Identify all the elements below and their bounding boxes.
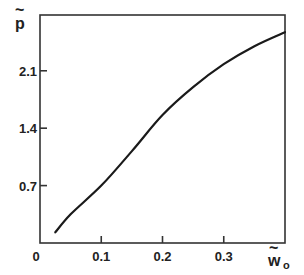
y-tick-label: 2.1 — [19, 64, 37, 79]
data-line — [55, 32, 285, 232]
x-tick-label: 0 — [32, 249, 39, 264]
x-tick-label: 0.3 — [215, 249, 233, 264]
x-tick-label: 0.2 — [153, 249, 171, 264]
y-tick-label: 0.7 — [19, 179, 37, 194]
tick-labels: 00.10.20.30.71.42.1 — [19, 64, 233, 264]
chart: 00.10.20.30.71.42.1 p ~ w ~ o — [0, 0, 304, 275]
y-tick-label: 1.4 — [19, 121, 38, 136]
y-axis-label-tilde: ~ — [15, 1, 24, 18]
x-tick-label: 0.1 — [92, 249, 110, 264]
x-axis-label-subscript: o — [283, 259, 290, 271]
x-axis-label-tilde: ~ — [269, 239, 278, 256]
